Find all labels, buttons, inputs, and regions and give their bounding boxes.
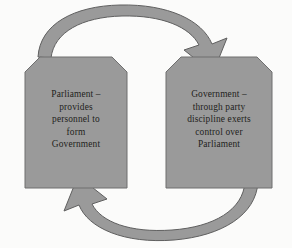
node-government-shape bbox=[166, 57, 272, 188]
node-parliament bbox=[25, 57, 127, 188]
node-government bbox=[166, 57, 272, 188]
diagram-canvas bbox=[0, 0, 292, 248]
cycle-diagram: Parliament – provides personnel to form … bbox=[0, 0, 292, 248]
node-parliament-shape bbox=[25, 57, 127, 188]
